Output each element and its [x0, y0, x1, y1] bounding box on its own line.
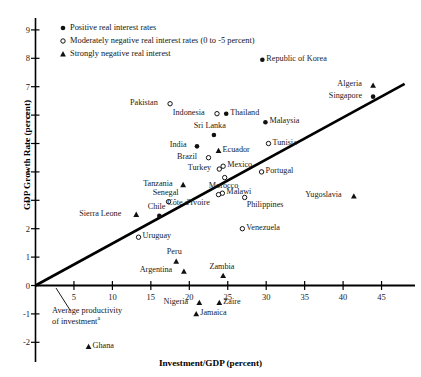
point-label-zaire: Zaire — [223, 298, 240, 306]
y-tick-label: 8 — [14, 53, 30, 63]
marker-venezuela — [240, 227, 244, 231]
marker-turkey — [217, 167, 221, 171]
x-tick-label: 15 — [141, 292, 161, 302]
y-tick-label: 6 — [14, 110, 30, 120]
average-productivity-note: Average productivity of investmenta — [52, 306, 122, 326]
y-tick-label: 5 — [14, 139, 30, 149]
point-label-sri-lanka: Sri Lanka — [194, 122, 226, 130]
y-tick-label: 0 — [14, 281, 30, 291]
y-tick-label: 3 — [14, 195, 30, 205]
marker-sierra-leone — [133, 212, 139, 217]
marker-tunisia — [266, 141, 270, 145]
marker-yugoslavia — [351, 193, 357, 198]
note-line-2-text: of investment — [52, 317, 97, 326]
legend-marker-triangle — [60, 51, 66, 56]
point-label-republic-of-korea: Republic of Korea — [266, 55, 326, 63]
point-label-pakistan: Pakistan — [130, 99, 158, 107]
y-tick-label: 2 — [14, 224, 30, 234]
marker-chile — [157, 214, 162, 219]
marker-pakistan — [168, 102, 172, 106]
point-label-senegal: Senegal — [153, 189, 179, 197]
y-tick-label: 9 — [14, 25, 30, 35]
y-tick-label: 7 — [14, 82, 30, 92]
legend-label-0: Positive real interest rates — [70, 24, 156, 32]
marker-malaysia — [263, 120, 268, 125]
point-label-yugoslavia: Yugoslavia — [305, 191, 341, 199]
x-axis-title: Investment/GDP (percent) — [0, 358, 421, 368]
point-label-portugal: Portugal — [266, 167, 294, 175]
marker-singapore — [371, 94, 376, 99]
point-label-venezuela: Venezuela — [246, 224, 280, 232]
marker-sri-lanka — [212, 133, 217, 138]
point-label-ecuador: Ecuador — [223, 146, 250, 154]
point-label-ghana: Ghana — [93, 342, 114, 350]
marker-brazil — [206, 156, 210, 160]
x-tick-label: 45 — [372, 292, 392, 302]
marker-algeria — [370, 82, 376, 87]
point-label-mexico: Mexico — [227, 161, 252, 169]
marker-indonesia — [215, 111, 219, 115]
point-label-jamaica: Jamaica — [200, 309, 226, 317]
point-label-nigeria: Nigeria — [164, 298, 189, 306]
point-label-tunisia: Tunisia — [273, 139, 297, 147]
point-label-brazil: Brazil — [177, 153, 197, 161]
legend-label-2: Strongly negative real interest — [70, 50, 171, 58]
point-label-c-te-d-ivoire: Côte d'Ivoire — [167, 199, 210, 207]
point-label-thailand: Thailand — [230, 109, 259, 117]
marker-portugal — [259, 170, 263, 174]
x-tick-label: 10 — [102, 292, 122, 302]
marker-india — [195, 144, 200, 149]
legend-label-1: Moderately negative real interest rates … — [70, 37, 255, 45]
x-tick-label: 35 — [295, 292, 315, 302]
marker-republic-of-korea — [260, 57, 265, 62]
marker-ecuador — [216, 148, 222, 153]
marker-ghana — [86, 344, 92, 349]
marker-tanzania — [180, 182, 186, 187]
y-tick-label: -2 — [14, 337, 30, 347]
y-tick-label: 1 — [14, 252, 30, 262]
x-tick-label: 40 — [333, 292, 353, 302]
marker-c-te-d-ivoire — [216, 192, 220, 196]
point-label-algeria: Algeria — [337, 80, 362, 88]
marker-thailand — [224, 111, 229, 116]
point-label-uruguay: Uruguay — [143, 232, 172, 240]
legend-markers — [60, 26, 66, 57]
marker-uruguay — [136, 235, 140, 239]
note-superscript: a — [97, 315, 100, 321]
point-label-zambia: Zambia — [209, 263, 234, 271]
point-label-india: India — [170, 141, 187, 149]
point-label-sierra-leone: Sierra Leone — [79, 210, 121, 218]
x-tick-label: 30 — [256, 292, 276, 302]
point-label-tanzania: Tanzania — [143, 180, 172, 188]
y-tick-label: -1 — [14, 309, 30, 319]
point-label-turkey: Turkey — [188, 164, 211, 172]
point-label-peru: Peru — [167, 248, 182, 256]
point-label-chile: Chile — [148, 203, 166, 211]
point-label-argentina: Argentina — [140, 266, 173, 274]
point-label-philippines: Philippines — [247, 201, 284, 209]
point-label-indonesia: Indonesia — [173, 109, 205, 117]
point-label-malawi: Malawi — [226, 188, 251, 196]
note-line-2: of investmenta — [52, 315, 122, 326]
marker-morocco — [222, 175, 226, 179]
marker-argentina — [181, 268, 187, 273]
point-label-singapore: Singapore — [329, 92, 362, 100]
legend-marker-filled-circle — [61, 26, 66, 31]
marker-jamaica — [193, 311, 199, 316]
marker-zambia — [220, 273, 226, 278]
note-line-1: Average productivity — [52, 306, 122, 315]
x-tick-label: 5 — [64, 292, 84, 302]
point-label-malaysia: Malaysia — [269, 117, 299, 125]
legend-marker-open-circle — [61, 39, 65, 43]
marker-peru — [173, 258, 179, 263]
y-tick-label: 4 — [14, 167, 30, 177]
